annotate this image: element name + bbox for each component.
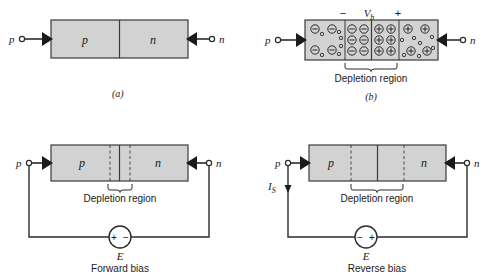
pn-junction-figure: p n p n (a) p n − Vb + (0, 0, 483, 277)
panel-d-left-node (285, 160, 290, 165)
panel-d-p-region-label: p (327, 156, 334, 170)
panel-a-left-terminal-label: p (8, 33, 15, 45)
panel-c-source-label: E (116, 250, 124, 262)
panel-d-source-polarity-left: − (357, 232, 363, 243)
panel-a-right-terminal-label: n (219, 33, 225, 45)
panel-c-bias-label: Forward bias (91, 263, 149, 274)
panel-a-right-node (209, 36, 214, 41)
panel-b-right-terminal-label: n (470, 34, 476, 46)
panel-a-left-node (19, 36, 24, 41)
panel-d-left-terminal-label: p (274, 157, 281, 169)
panel-c-source-polarity-left: + (111, 232, 117, 243)
panel-c-left-node (26, 160, 31, 165)
panel-c-right-node (206, 160, 211, 165)
panel-b-left-terminal-label: p (264, 34, 271, 46)
panel-c-depletion-label: Depletion region (84, 193, 157, 204)
panel-d-source-polarity-right: + (369, 232, 375, 243)
panel-a-n-region-label: n (150, 33, 156, 47)
panel-a-p-region-label: p (81, 33, 88, 47)
panel-c-left-terminal-label: p (15, 157, 22, 169)
panel-b-barrier-minus: − (340, 7, 346, 19)
panel-b-caption: (b) (365, 91, 377, 103)
panel-c-p-region-label: p (78, 156, 85, 170)
panel-a-caption: (a) (112, 88, 124, 100)
panel-d-bias-label: Reverse bias (348, 263, 406, 274)
panel-d-depletion-label: Depletion region (341, 193, 414, 204)
panel-b-depletion-label: Depletion region (335, 73, 408, 84)
panel-d-n-region-label: n (421, 156, 427, 170)
panel-b-left-node (275, 37, 280, 42)
panel-b-barrier-plus: + (395, 7, 401, 19)
panel-d-current-subscript: S (272, 186, 276, 195)
panel-d-right-terminal-label: n (474, 157, 480, 169)
panel-d-right-node (464, 160, 469, 165)
panel-c-source-polarity-right: − (123, 232, 129, 243)
panel-d-source-label: E (362, 250, 370, 262)
panel-c-n-region-label: n (155, 156, 161, 170)
panel-c-right-terminal-label: n (216, 157, 222, 169)
panel-b-vb-subscript: b (370, 13, 374, 22)
panel-b-right-node (460, 37, 465, 42)
